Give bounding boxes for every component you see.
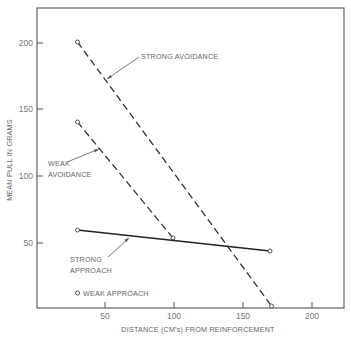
svg-text:APPROACH: APPROACH xyxy=(70,266,112,275)
annotation-strong-approach: STRONG APPROACH xyxy=(70,238,129,275)
x-tick-label: 100 xyxy=(167,311,181,321)
y-axis-title: MEAN PULL IN GRAMS xyxy=(5,119,14,201)
y-tick-label: 50 xyxy=(24,238,34,248)
strong-approach-line xyxy=(78,230,271,251)
y-axis xyxy=(37,43,43,243)
data-point xyxy=(270,304,274,308)
weak-approach-point xyxy=(76,291,80,295)
arrow-icon xyxy=(107,75,112,79)
annotation-weak-approach: WEAK APPROACH xyxy=(83,289,149,298)
x-tick-label: 50 xyxy=(100,311,110,321)
x-tick-label: 150 xyxy=(236,311,250,321)
y-tick-label: 100 xyxy=(19,171,33,181)
y-tick-label: 200 xyxy=(19,38,33,48)
weak-avoidance-line xyxy=(78,122,174,238)
arrow-icon xyxy=(94,149,99,152)
data-point xyxy=(76,120,80,124)
data-point xyxy=(76,228,80,232)
data-point xyxy=(268,249,272,253)
svg-text:STRONG AVOIDANCE: STRONG AVOIDANCE xyxy=(141,52,218,61)
x-axis-title: DISTANCE (CM's) FROM REINFORCEMENT xyxy=(121,325,275,334)
y-tick-label: 150 xyxy=(19,104,33,114)
svg-text:WEAK: WEAK xyxy=(48,159,70,168)
annotation-strong-avoidance: STRONG AVOIDANCE xyxy=(107,52,218,79)
svg-text:STRONG: STRONG xyxy=(70,255,102,264)
data-point xyxy=(76,40,80,44)
annotation-weak-avoidance: WEAK AVOIDANCE xyxy=(48,149,99,179)
x-tick-label: 200 xyxy=(305,311,319,321)
data-point xyxy=(171,236,175,240)
chart-canvas: 200 150 100 50 50 100 150 200 DISTANCE (… xyxy=(0,0,351,337)
svg-text:AVOIDANCE: AVOIDANCE xyxy=(48,170,92,179)
x-axis xyxy=(105,302,312,308)
